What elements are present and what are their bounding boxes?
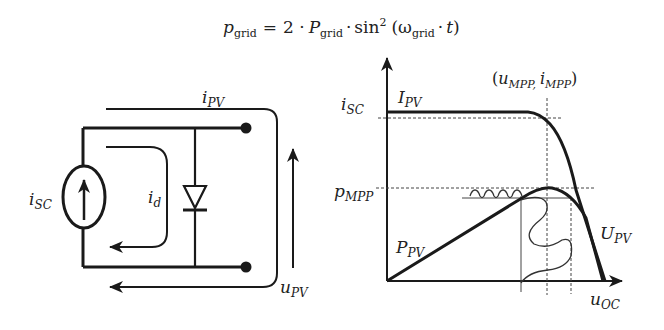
label-i-pv: iPV	[202, 87, 226, 110]
label-graph-U-pv: UPV	[600, 223, 632, 246]
label-i-d: id	[148, 187, 161, 210]
terminal-top	[241, 123, 252, 134]
diagram-canvas: pgrid=2 ·Pgrid·sin2(ωgrid·t) iPV iSC id …	[0, 0, 664, 330]
label-graph-p-mpp: pMPP	[334, 181, 374, 204]
eq-sin: sin	[354, 17, 379, 37]
eq-omega-sub: grid	[412, 27, 435, 40]
eq-close: )	[453, 17, 460, 37]
eq-open: (	[391, 17, 398, 37]
terminal-bottom	[241, 262, 252, 273]
eq-dot1: ·	[346, 17, 351, 37]
eq-omega: ω	[398, 17, 412, 37]
svg-text:pgrid=2 ·Pgrid·sin2(ωgrid·t): pgrid=2 ·Pgrid·sin2(ωgrid·t)	[223, 16, 460, 40]
power-ripple-wave	[470, 190, 522, 198]
label-graph-i-sc: iSC	[341, 94, 364, 117]
eq-P-symbol: P	[308, 17, 321, 37]
label-mpp-point: (uMPP,iMPP)	[492, 69, 577, 91]
label-graph-P-pv: PPV	[395, 237, 426, 260]
eq-lhs-symbol: p	[223, 17, 234, 37]
label-i-sc: iSC	[29, 189, 52, 212]
voltage-ripple-wave	[521, 197, 572, 283]
label-graph-u-oc: uOC	[590, 289, 620, 312]
eq-dot2: ·	[438, 17, 443, 37]
eq-lhs-sub: grid	[234, 27, 257, 40]
eq-P-sub: grid	[320, 27, 343, 40]
eq-coef: 2 ·	[283, 17, 305, 37]
pv-diagram: pgrid=2 ·Pgrid·sin2(ωgrid·t) iPV iSC id …	[0, 0, 664, 330]
grid-power-equation: pgrid=2 ·Pgrid·sin2(ωgrid·t)	[223, 16, 460, 40]
eq-sin-sup: 2	[379, 16, 386, 29]
label-graph-I-pv: IPV	[397, 87, 423, 110]
i-pv-loop-arrow	[106, 109, 277, 287]
pv-equivalent-circuit	[63, 109, 293, 287]
eq-equals: =	[263, 17, 277, 37]
label-u-pv: uPV	[280, 277, 309, 300]
diode-icon	[184, 186, 206, 208]
